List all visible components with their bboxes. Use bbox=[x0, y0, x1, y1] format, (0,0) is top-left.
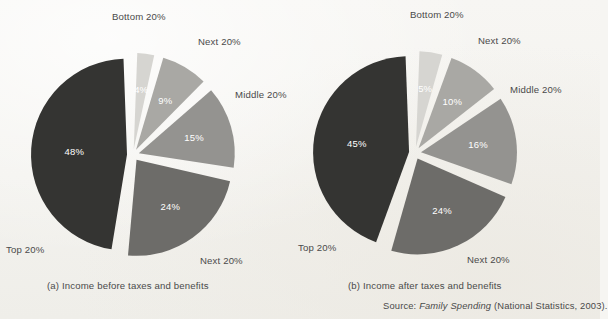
pie-slice-value-label: 16% bbox=[468, 139, 488, 150]
callout-a-middle-20: Middle 20% bbox=[235, 90, 287, 100]
callout-a-next-20-lower: Next 20% bbox=[200, 256, 243, 266]
pie-slice-value-label: 48% bbox=[64, 146, 84, 157]
callout-b-next-20-upper: Next 20% bbox=[478, 36, 521, 46]
caption-chart-b: (b) Income after taxes and benefits bbox=[348, 280, 502, 291]
pie-slice-value-label: 5% bbox=[418, 83, 432, 94]
source-note: Source: Family Spending (National Statis… bbox=[383, 300, 608, 311]
caption-chart-a: (a) Income before taxes and benefits bbox=[47, 280, 209, 291]
pie-slice-value-label: 10% bbox=[443, 96, 463, 107]
source-prefix: Source: bbox=[383, 300, 419, 311]
pie-slice-value-label: 9% bbox=[158, 95, 172, 106]
chart-panel-b: 5%10%16%24%45% Bottom 20% Next 20% Middl… bbox=[300, 0, 600, 319]
source-publication-title: Family Spending bbox=[419, 300, 491, 311]
source-suffix: (National Statistics, 2003). bbox=[491, 300, 607, 311]
pie-slice-value-label: 45% bbox=[347, 138, 367, 149]
pie-chart-b: 5%10%16%24%45% bbox=[300, 10, 600, 275]
pie-slice-value-label: 24% bbox=[432, 205, 452, 216]
chart-panel-a: 4%9%15%24%48% Bottom 20% Next 20% Middle… bbox=[0, 0, 300, 319]
pie-slice-value-label: 15% bbox=[184, 132, 204, 143]
pie-slice-value-label: 24% bbox=[161, 201, 181, 212]
pie-chart-a: 4%9%15%24%48% bbox=[0, 10, 300, 275]
callout-a-bottom-20: Bottom 20% bbox=[112, 12, 166, 22]
callout-b-top-20: Top 20% bbox=[298, 243, 336, 253]
callout-b-middle-20: Middle 20% bbox=[510, 85, 562, 95]
callout-a-top-20: Top 20% bbox=[6, 245, 44, 255]
callout-b-next-20-lower: Next 20% bbox=[467, 255, 510, 265]
pie-slice-value-label: 4% bbox=[134, 84, 148, 95]
callout-a-next-20-upper: Next 20% bbox=[198, 37, 241, 47]
callout-b-bottom-20: Bottom 20% bbox=[410, 10, 464, 20]
